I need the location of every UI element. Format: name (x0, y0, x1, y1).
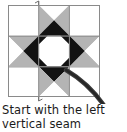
caption-line-2: vertical seam (2, 117, 127, 131)
hourglass-top-center (39, 5, 70, 36)
hourglass-middle-left (8, 36, 39, 67)
caption-line-1: Start with the left (2, 103, 127, 117)
quilt-block-diagram (0, 0, 127, 104)
corner-plain-top-left (8, 5, 39, 36)
corner-plain-bottom-left (8, 66, 39, 97)
corner-plain-top-right (69, 5, 100, 36)
center-octagon-snowball (39, 36, 70, 67)
hourglass-middle-right (69, 36, 100, 67)
quilt-instruction-figure: Start with the left vertical seam (0, 0, 127, 132)
caption: Start with the left vertical seam (2, 103, 127, 132)
